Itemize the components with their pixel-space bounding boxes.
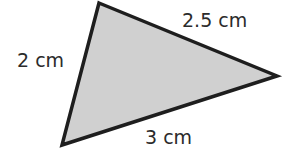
side-label-left: 2 cm (17, 49, 64, 71)
side-label-top-right: 2.5 cm (182, 9, 247, 31)
triangle-diagram: 2 cm 2.5 cm 3 cm (0, 0, 285, 168)
side-label-bottom: 3 cm (145, 126, 192, 148)
